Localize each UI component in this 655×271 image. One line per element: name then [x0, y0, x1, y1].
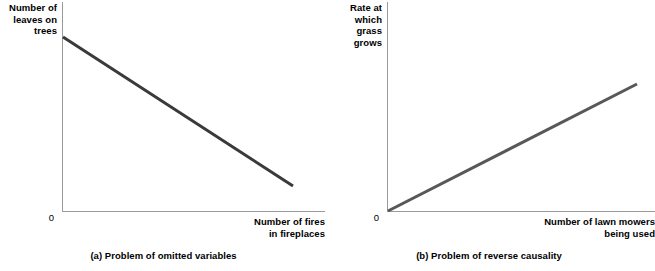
panel-b-y-axis-label: Rate at which grass grows — [328, 2, 382, 48]
panel-a-y-axis-label: Number of leaves on trees — [0, 2, 57, 37]
panel-a-origin-label: 0 — [40, 212, 54, 223]
panel-b-reverse-causality: Rate at which grass grows Number of lawn… — [328, 0, 655, 271]
panel-a-trend-line — [63, 37, 293, 186]
panel-b-caption: (b) Problem of reverse causality — [378, 250, 600, 262]
figure-two-panel-causality: Number of leaves on trees Number of fire… — [0, 0, 655, 271]
panel-a-omitted-variables: Number of leaves on trees Number of fire… — [0, 0, 327, 271]
panel-b-origin-label: 0 — [365, 212, 379, 223]
panel-a-caption: (a) Problem of omitted variables — [56, 250, 271, 262]
panel-a-x-axis-label: Number of fires in fireplaces — [195, 216, 325, 239]
panel-b-x-axis-label: Number of lawn mowers being used — [508, 216, 655, 239]
panel-b-trend-line — [388, 84, 637, 211]
